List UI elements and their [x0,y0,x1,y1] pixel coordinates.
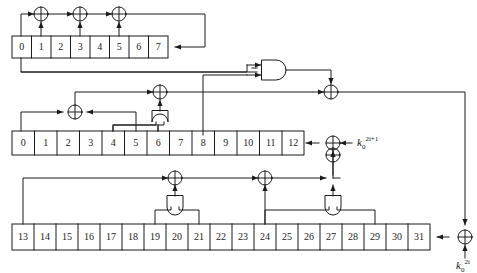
top-cell-5: 5 [110,42,130,52]
bottom-cell-30: 30 [386,232,408,242]
bottom-cell-21: 21 [188,232,210,242]
top-cell-3: 3 [71,42,91,52]
middle-cell-5: 5 [125,138,148,148]
bottom-cell-28: 28 [342,232,364,242]
top-cell-6: 6 [129,42,149,52]
middle-cell-2: 2 [57,138,80,148]
lfsr-diagram: 0 1 2 3 4 5 6 7 0 1 2 3 4 5 6 7 8 9 10 1… [0,0,477,273]
bottom-register-tap-13 [23,178,168,224]
top-register-taps [41,22,119,36]
bottom-cell-27: 27 [320,232,342,242]
bottom-cell-18: 18 [122,232,144,242]
middle-cell-9: 9 [215,138,238,148]
bottom-cell-14: 14 [34,232,56,242]
top-register-output-wire [21,58,257,72]
output-xor-wires [437,237,465,258]
middle-left-xor-wires [21,112,136,131]
bottom-cell-26: 26 [298,232,320,242]
middle-cell-12: 12 [282,138,305,148]
bottom-cell-23: 23 [232,232,254,242]
bottom-cell-16: 16 [78,232,100,242]
key-even-sub: 0 [461,266,465,273]
top-cell-1: 1 [32,42,52,52]
and-gate-top-shape [262,60,286,80]
middle-cell-10: 10 [237,138,260,148]
and-gate-middle-inputs [113,122,164,131]
bottom-cell-22: 22 [210,232,232,242]
middle-cell-11: 11 [260,138,283,148]
bottom-cell-19: 19 [144,232,166,242]
top-cell-0: 0 [12,42,32,52]
middle-cell-8: 8 [192,138,215,148]
middle-right-xor-output-wire [338,92,465,225]
middle-cell-7: 7 [170,138,193,148]
bottom-cell-29: 29 [364,232,386,242]
and-gate-bottom-left-shape [167,196,183,215]
middle-cell-3: 3 [80,138,103,148]
top-cell-7: 7 [149,42,169,52]
middle-left-xor-output-wire [75,92,153,105]
bottom-cell-13: 13 [12,232,34,242]
top-cell-4: 4 [90,42,110,52]
bottom-cell-31: 31 [408,232,430,242]
bottom-cell-24: 24 [254,232,276,242]
bottom-xor-chain-wires [182,162,340,178]
bottom-cell-25: 25 [276,232,298,242]
key-odd-sup: 2i+1 [365,135,378,143]
key-odd-wires [306,143,352,175]
middle-cell-4: 4 [102,138,125,148]
key-odd-sub: 0 [362,143,366,151]
middle-cell-6: 6 [147,138,170,148]
and-gate-middle-shape [152,111,168,122]
and-gate-bottom-right-inputs [265,207,375,224]
top-cell-2: 2 [51,42,71,52]
middle-cell-1: 1 [35,138,58,148]
key-label-even: k02i [456,258,470,273]
and-gate-bottom-right-shape [325,196,341,215]
and-gate-top-output-wire [286,70,331,84]
key-even-sup: 2i [464,258,469,266]
bottom-cell-15: 15 [56,232,78,242]
and-gate-bottom-left-inputs [155,207,199,224]
bottom-cell-17: 17 [100,232,122,242]
key-label-odd: k02i+1 [357,135,378,151]
middle-cell-0: 0 [12,138,35,148]
bottom-cell-20: 20 [166,232,188,242]
